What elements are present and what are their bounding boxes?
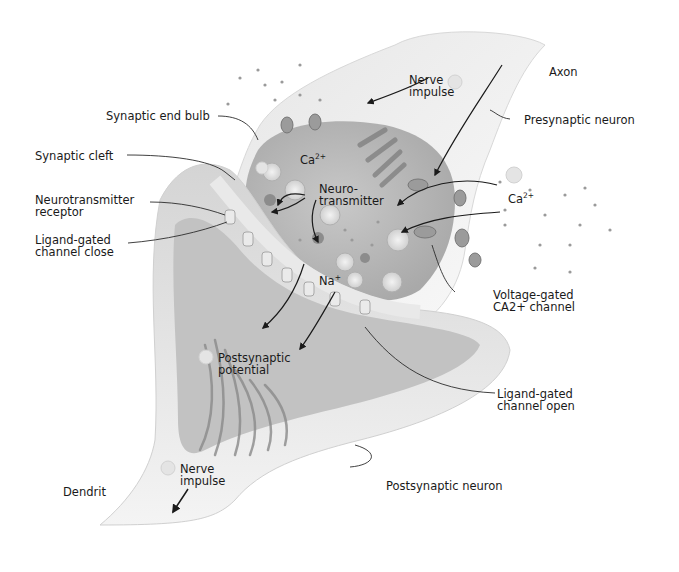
- label-ca-outside: Ca2+: [508, 193, 534, 205]
- label-neurotransmitter: Neuro- transmitter: [319, 183, 384, 207]
- label-ligand-gated-close-line2: channel close: [35, 246, 114, 258]
- label-ligand-gated-channel-open: Ligand-gated channel open: [497, 388, 575, 412]
- label-synaptic-end-bulb: Synaptic end bulb: [106, 110, 210, 122]
- label-presynaptic-neuron: Presynaptic neuron: [524, 114, 635, 126]
- label-postsynaptic-neuron: Postsynaptic neuron: [386, 480, 503, 492]
- label-synaptic-cleft: Synaptic cleft: [35, 150, 113, 162]
- synapse-diagram: Axon Presynaptic neuron Nerve impulse Sy…: [0, 0, 679, 572]
- label-dendrit: Dendrit: [63, 486, 106, 498]
- label-voltage-gated-line2: CA2+ channel: [493, 301, 575, 313]
- label-ligand-gated-open-line2: channel open: [497, 400, 575, 412]
- label-nerve-impulse-bottom-line2: impulse: [180, 475, 225, 487]
- label-ligand-gated-channel-close: Ligand-gated channel close: [35, 234, 114, 258]
- label-voltage-gated-channel: Voltage-gated CA2+ channel: [493, 289, 575, 313]
- label-neurotransmitter-receptor-line2: receptor: [35, 206, 134, 218]
- label-nerve-impulse-top-line2: impulse: [409, 86, 454, 98]
- label-postsynaptic-potential-line2: potential: [218, 364, 291, 376]
- label-postsynaptic-potential: Postsynaptic potential: [218, 352, 291, 376]
- label-neurotransmitter-receptor: Neurotransmitter receptor: [35, 194, 134, 218]
- label-neurotransmitter-line2: transmitter: [319, 195, 384, 207]
- label-nerve-impulse-bottom: Nerve impulse: [180, 463, 225, 487]
- label-ca-inside: Ca2+: [300, 154, 326, 166]
- label-na: Na+: [319, 275, 341, 287]
- label-nerve-impulse-top: Nerve impulse: [409, 74, 454, 98]
- label-axon: Axon: [549, 66, 578, 78]
